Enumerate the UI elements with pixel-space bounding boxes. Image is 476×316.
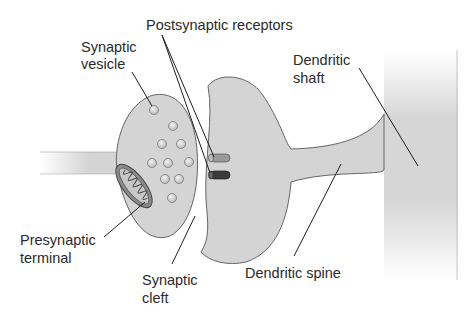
label-presynaptic-terminal-2: terminal [20,250,72,266]
label-synaptic-cleft-2: cleft [142,290,169,306]
label-dendritic-spine: Dendritic spine [245,265,341,281]
label-dendritic-shaft-2: shaft [293,70,324,86]
label-dendritic-shaft: Dendritic [293,52,350,68]
label-postsynaptic-receptors: Postsynaptic receptors [146,17,293,33]
label-presynaptic-terminal: Presynaptic [20,232,96,248]
dendritic-shaft [384,50,458,280]
label-synaptic-cleft: Synaptic [142,272,198,288]
label-synaptic-vesicle: Synaptic [81,39,137,55]
dendritic-spine [201,77,384,264]
label-synaptic-vesicle-2: vesicle [81,56,125,72]
synapse-diagram: Postsynaptic receptors Synaptic vesicle … [0,0,476,316]
